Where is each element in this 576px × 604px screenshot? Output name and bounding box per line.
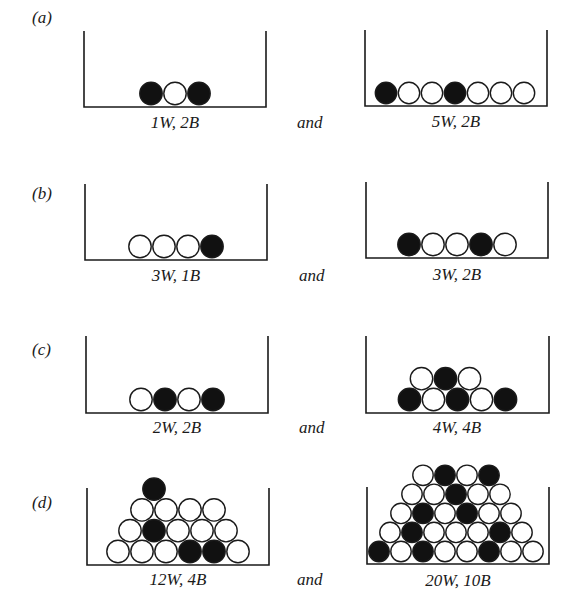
white-ball [424, 522, 444, 542]
white-ball [391, 503, 411, 523]
white-ball [402, 484, 422, 504]
black-ball [369, 541, 389, 561]
white-ball [490, 484, 510, 504]
black-ball [457, 503, 477, 523]
white-ball [479, 503, 499, 523]
container-d-right [0, 0, 576, 604]
white-ball [391, 541, 411, 561]
black-ball [490, 522, 510, 542]
black-ball [435, 465, 455, 485]
white-ball [380, 522, 400, 542]
white-ball [457, 465, 477, 485]
white-ball [424, 484, 444, 504]
white-ball [523, 541, 543, 561]
white-ball [413, 465, 433, 485]
white-ball [468, 522, 488, 542]
white-ball [446, 522, 466, 542]
white-ball [512, 522, 532, 542]
white-ball [501, 503, 521, 523]
black-ball [479, 465, 499, 485]
white-ball [457, 541, 477, 561]
black-ball [446, 484, 466, 504]
white-ball [435, 541, 455, 561]
caption-d-right: 20W, 10B [367, 571, 549, 591]
white-ball [468, 484, 488, 504]
black-ball [479, 541, 499, 561]
white-ball [501, 541, 521, 561]
black-ball [402, 522, 422, 542]
white-ball [435, 503, 455, 523]
black-ball [413, 541, 433, 561]
black-ball [413, 503, 433, 523]
